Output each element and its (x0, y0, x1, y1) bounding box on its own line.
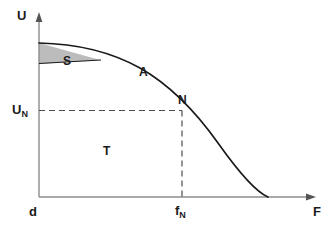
x-axis-label: F (313, 205, 321, 218)
origin-label: d (29, 205, 37, 218)
plot-figure: U F d UN fN N A S T (0, 0, 335, 230)
y-tick-label-un: UN (12, 103, 28, 116)
curve-label-a: A (139, 66, 148, 78)
curve-a (39, 43, 268, 197)
y-axis-label: U (17, 9, 26, 22)
region-label-s: S (63, 55, 71, 67)
region-label-t: T (103, 145, 110, 157)
y-tick-label-base: U (12, 102, 21, 117)
y-tick-label-subscript: N (21, 109, 28, 119)
x-axis-arrow-icon (306, 194, 316, 201)
x-tick-label-fn: fN (175, 204, 186, 217)
point-label-n: N (178, 94, 187, 106)
plot-canvas (0, 0, 335, 230)
x-tick-label-subscript: N (179, 210, 186, 220)
y-axis-arrow-icon (36, 12, 43, 22)
